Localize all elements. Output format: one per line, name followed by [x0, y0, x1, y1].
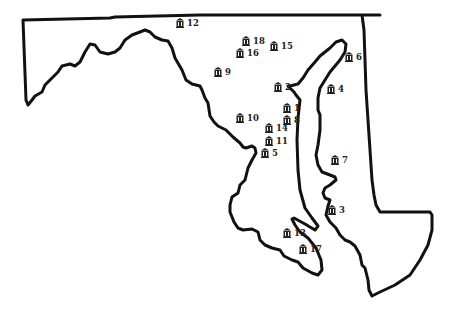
courthouse-icon — [236, 48, 244, 58]
courthouse-icon — [236, 113, 244, 123]
marker-label: 8 — [294, 115, 300, 125]
marker-label: 14 — [276, 123, 288, 133]
courthouse-icon — [327, 84, 335, 94]
marker-label: 18 — [253, 36, 265, 46]
courthouse-icon — [270, 41, 278, 51]
courthouse-marker-18[interactable]: 18 — [242, 35, 265, 47]
courthouse-icon — [274, 82, 282, 92]
marker-label: 7 — [342, 155, 348, 165]
courthouse-marker-3[interactable]: 3 — [328, 204, 345, 216]
courthouse-marker-2[interactable]: 2 — [274, 81, 291, 93]
courthouse-icon — [283, 103, 291, 113]
marker-label: 2 — [285, 82, 291, 92]
courthouse-marker-4[interactable]: 4 — [327, 83, 344, 95]
courthouse-marker-11[interactable]: 11 — [265, 135, 288, 147]
courthouse-icon — [331, 155, 339, 165]
marker-label: 4 — [338, 84, 344, 94]
courthouse-marker-12[interactable]: 12 — [176, 17, 199, 29]
marker-label: 9 — [225, 67, 231, 77]
state-outline-west — [23, 15, 432, 296]
courthouse-icon — [176, 18, 184, 28]
courthouse-icon — [261, 148, 269, 158]
marker-label: 12 — [187, 18, 199, 28]
courthouse-icon — [265, 123, 273, 133]
state-map — [0, 0, 454, 317]
courthouse-marker-13[interactable]: 13 — [283, 227, 306, 239]
marker-label: 11 — [276, 136, 288, 146]
marker-label: 13 — [294, 228, 306, 238]
marker-label: 16 — [247, 48, 259, 58]
marker-label: 6 — [356, 52, 362, 62]
courthouse-icon — [328, 205, 336, 215]
courthouse-marker-9[interactable]: 9 — [214, 66, 231, 78]
courthouse-marker-15[interactable]: 15 — [270, 40, 293, 52]
courthouse-marker-17[interactable]: 17 — [299, 243, 322, 255]
courthouse-marker-16[interactable]: 16 — [236, 47, 259, 59]
courthouse-icon — [345, 52, 353, 62]
courthouse-marker-14[interactable]: 14 — [265, 122, 288, 134]
courthouse-marker-6[interactable]: 6 — [345, 51, 362, 63]
marker-label: 3 — [339, 205, 345, 215]
courthouse-marker-7[interactable]: 7 — [331, 154, 348, 166]
courthouse-icon — [283, 228, 291, 238]
courthouse-icon — [265, 136, 273, 146]
marker-label: 1 — [294, 103, 300, 113]
marker-label: 10 — [247, 113, 259, 123]
marker-label: 5 — [272, 148, 278, 158]
marker-label: 15 — [281, 41, 293, 51]
courthouse-marker-10[interactable]: 10 — [236, 112, 259, 124]
courthouse-icon — [214, 67, 222, 77]
courthouse-marker-1[interactable]: 1 — [283, 102, 300, 114]
marker-label: 17 — [310, 244, 322, 254]
courthouse-icon — [299, 244, 307, 254]
courthouse-marker-5[interactable]: 5 — [261, 147, 278, 159]
courthouse-icon — [242, 36, 250, 46]
